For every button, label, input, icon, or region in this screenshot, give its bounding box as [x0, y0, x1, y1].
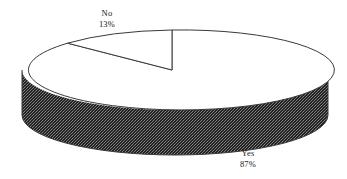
slice-label-yes: Yes 87% — [222, 148, 274, 169]
pie-chart-graphic — [0, 0, 347, 179]
slice-label-yes-name: Yes — [222, 148, 274, 159]
slice-label-no-name: No — [84, 8, 130, 19]
pie-chart: No 13% Yes 87% — [0, 0, 347, 179]
slice-label-no: No 13% — [84, 8, 130, 29]
slice-label-no-percent: 13% — [84, 19, 130, 30]
slice-label-yes-percent: 87% — [222, 159, 274, 170]
